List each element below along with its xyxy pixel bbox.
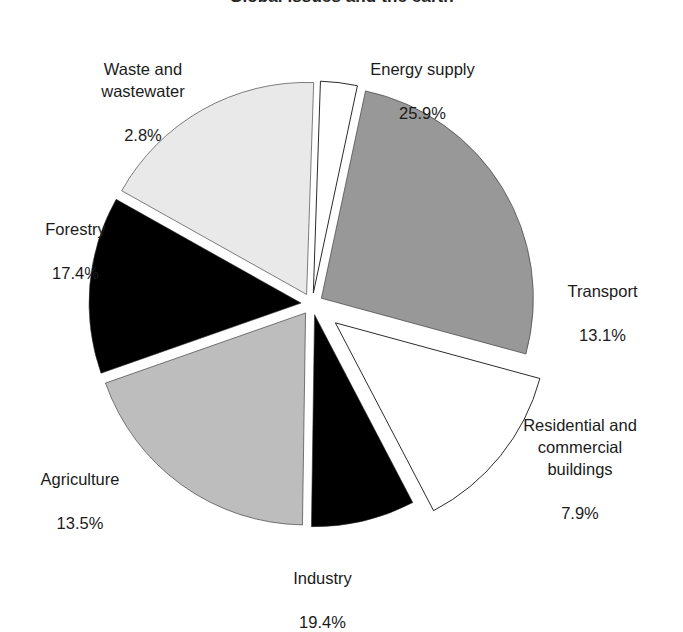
slice-label-name: Residential and commercial buildings <box>485 414 675 480</box>
slice-label-value: 13.1% <box>525 324 680 346</box>
slice-label-name: Energy supply <box>330 58 515 80</box>
slice-label-value: 2.8% <box>48 124 238 146</box>
slice-label-value: 7.9% <box>485 502 675 524</box>
slice-label-name: Waste and wastewater <box>48 58 238 102</box>
slice-label-name: Forestry <box>8 218 143 240</box>
slice-label-energy-supply: Energy supply 25.9% <box>330 36 515 146</box>
slice-label-waste-and-wastewater: Waste and wastewater 2.8% <box>48 36 238 168</box>
slice-label-forestry: Forestry 17.4% <box>8 196 143 306</box>
slice-label-residential-and-commercial-buildings: Residential and commercial buildings 7.9… <box>485 392 675 546</box>
slice-label-value: 13.5% <box>5 512 155 534</box>
slice-label-name: Industry <box>245 567 400 589</box>
slice-label-name: Agriculture <box>5 468 155 490</box>
slice-label-name: Transport <box>525 280 680 302</box>
slice-label-agriculture: Agriculture 13.5% <box>5 446 155 556</box>
slice-label-value: 19.4% <box>245 611 400 632</box>
slice-label-transport: Transport 13.1% <box>525 258 680 368</box>
slice-label-value: 25.9% <box>330 102 515 124</box>
slice-label-industry: Industry 19.4% <box>245 545 400 632</box>
slice-label-value: 17.4% <box>8 262 143 284</box>
